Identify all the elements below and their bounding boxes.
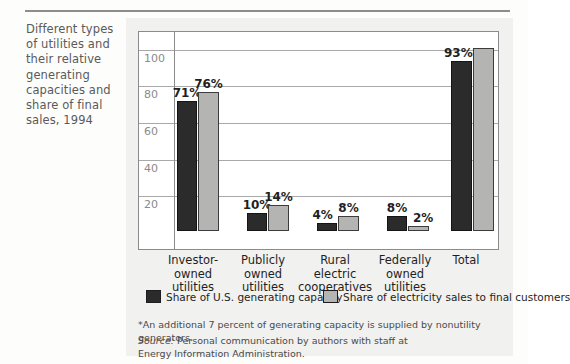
y-tick-label-60: 60: [144, 126, 158, 137]
bar-total-sales[interactable]: [473, 48, 494, 231]
legend-item-capacity[interactable]: Share of U.S. generating capacity: [146, 290, 342, 303]
bar-investor-capacity[interactable]: [177, 101, 197, 231]
bar-group-investor-owned: 71% 76%: [175, 48, 237, 231]
bar-wrap-total-sales[interactable]: [473, 48, 494, 231]
bar-wrap-investor-sales[interactable]: 76%: [198, 92, 219, 231]
bar-investor-sales[interactable]: [198, 92, 219, 231]
bar-label-rural-sales: 8%: [338, 202, 358, 214]
source-label: Source:: [138, 335, 174, 346]
category-label-federally-owned: Federally owned utilities: [364, 254, 446, 295]
bar-federally-capacity[interactable]: [387, 216, 407, 231]
legend-swatch-dark-icon: [146, 290, 161, 303]
bar-wrap-total-capacity[interactable]: 93%*: [451, 61, 472, 231]
bar-wrap-publicly-sales[interactable]: 14%: [268, 205, 289, 231]
top-horizontal-rule: [25, 10, 510, 12]
chart-legend: Share of U.S. generating capacity Share …: [138, 290, 508, 306]
bar-total-capacity[interactable]: [451, 61, 472, 231]
y-tick-label-20: 20: [144, 199, 158, 210]
bar-rural-capacity[interactable]: [317, 223, 337, 231]
chart-source: Source: Personal communication by author…: [138, 335, 438, 360]
bar-wrap-rural-capacity[interactable]: 4%: [317, 223, 337, 231]
legend-label-sales: Share of electricity sales to final cust…: [343, 291, 570, 303]
bar-label-federally-sales: 2%: [413, 212, 433, 224]
bar-chart: 100 80 60 40 20 71% 76% 10%: [138, 31, 499, 250]
legend-item-sales[interactable]: Share of electricity sales to final cust…: [323, 290, 570, 303]
bar-rural-sales[interactable]: [338, 216, 359, 231]
bar-label-publicly-sales: 14%: [264, 191, 293, 203]
bar-federally-sales[interactable]: [408, 226, 429, 231]
y-tick-label-100: 100: [144, 53, 165, 64]
bar-wrap-publicly-capacity[interactable]: 10%: [247, 213, 267, 231]
bar-wrap-federally-capacity[interactable]: 8%: [387, 216, 407, 231]
bar-group-publicly-owned: 10% 14%: [245, 48, 307, 231]
bar-label-investor-sales: 76%: [194, 78, 223, 90]
bar-label-federally-capacity: 8%: [387, 202, 407, 214]
source-text: Personal communication by authors with s…: [138, 335, 408, 359]
bar-publicly-sales[interactable]: [268, 205, 289, 231]
legend-swatch-light-icon: [323, 290, 338, 303]
bar-wrap-investor-capacity[interactable]: 71%: [177, 101, 197, 231]
figure-caption: Different types of utilities and their r…: [26, 22, 124, 128]
bar-wrap-federally-sales[interactable]: 2%: [408, 226, 429, 231]
bar-group-total: 93%*: [449, 48, 505, 231]
bar-group-federally-owned: 8% 2%: [385, 48, 447, 231]
figure-panel: 100 80 60 40 20 71% 76% 10%: [126, 18, 513, 356]
bar-wrap-rural-sales[interactable]: 8%: [338, 216, 359, 231]
bar-label-rural-capacity: 4%: [312, 209, 332, 221]
bar-group-rural-electric: 4% 8%: [315, 48, 377, 231]
category-label-total: Total: [436, 254, 496, 268]
y-tick-label-80: 80: [144, 89, 158, 100]
bar-publicly-capacity[interactable]: [247, 213, 267, 231]
y-tick-label-40: 40: [144, 163, 158, 174]
legend-label-capacity: Share of U.S. generating capacity: [166, 291, 342, 303]
